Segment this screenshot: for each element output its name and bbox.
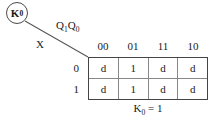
table-row: d 1 d d <box>89 58 207 78</box>
row-header-column: 0 1 <box>58 57 84 100</box>
kmap-cell: 1 <box>118 79 148 99</box>
kmap-cell: d <box>148 79 178 99</box>
caption-equation: = 1 <box>148 102 162 114</box>
kmap-cell: d <box>177 58 207 78</box>
row-header: 0 <box>58 57 84 79</box>
column-variable-label: Q1Q0 <box>56 19 79 34</box>
column-variable-second-base: Q <box>68 19 76 31</box>
column-variable-first-base: Q <box>56 19 64 31</box>
output-signal-base: K <box>11 7 20 19</box>
column-header: 00 <box>88 40 118 52</box>
column-header: 01 <box>118 40 148 52</box>
kmap-grid: d 1 d d d 1 d d <box>88 57 208 100</box>
row-header: 1 <box>58 79 84 101</box>
kmap-cell: d <box>148 58 178 78</box>
output-signal-subscript: 0 <box>19 9 23 18</box>
output-signal-circle: K0 <box>6 2 28 24</box>
kmap-cell: d <box>177 79 207 99</box>
kmap-cell: 1 <box>118 58 148 78</box>
column-header: 11 <box>148 40 178 52</box>
kmap-caption: K0 = 1 <box>88 102 208 117</box>
column-header: 10 <box>178 40 208 52</box>
column-variable-second-subscript: 0 <box>76 25 80 34</box>
row-variable-label: X <box>36 38 44 50</box>
kmap-cell: d <box>89 58 118 78</box>
caption-subscript: 0 <box>141 108 145 117</box>
kmap-diagram: K0 Q1Q0 X 00 01 11 10 0 1 d 1 d d d 1 d … <box>0 0 217 127</box>
column-header-row: 00 01 11 10 <box>88 40 208 52</box>
kmap-cell: d <box>89 79 118 99</box>
table-row: d 1 d d <box>89 78 207 99</box>
